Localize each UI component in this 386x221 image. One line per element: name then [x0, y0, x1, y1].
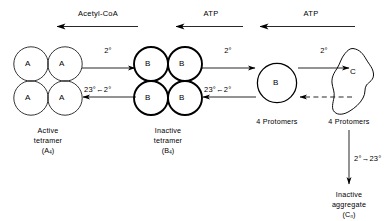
subunit-label-c: C [350, 67, 356, 76]
species-c-blob [322, 46, 378, 118]
top-arrow-label-acetyl-coa: Acetyl-CoA [78, 9, 118, 19]
arrows-b4-b1-group [202, 55, 264, 107]
diagram-canvas: Acetyl-CoA ATP ATP A A A A Active tetram… [0, 0, 386, 221]
species-a4-tetramer [13, 46, 83, 116]
top-arrow-label-atp-1: ATP [204, 9, 219, 19]
subunit-circle-a [14, 81, 48, 115]
subunit-circle-a [48, 47, 82, 81]
top-arrow-label-atp-2: ATP [304, 9, 319, 19]
subunit-label-b: B [273, 78, 279, 87]
subunit-label-b: B [145, 59, 151, 68]
caption-final-line1: Inactive [336, 190, 362, 199]
subunit-circle-a [14, 47, 48, 81]
aggregate-outline [332, 48, 374, 114]
subunit-label-a: A [59, 59, 65, 68]
caption-final-line2: aggregate [332, 200, 366, 209]
subunit-label-b: B [145, 93, 151, 102]
arrow-label-b4-to-a4: 23°←2° [84, 85, 112, 95]
species-b4-tetramer [133, 46, 203, 116]
subunit-label-a: A [59, 93, 65, 102]
arrow-label-a4-to-b4: 2° [104, 46, 112, 56]
caption-a4-formula: (A4) [42, 146, 55, 157]
arrow-label-b1-to-b4: 23°←2° [204, 85, 232, 95]
caption-final-formula: (Cn) [342, 210, 355, 221]
arrow-label-b4-to-b1: 2° [224, 46, 232, 56]
caption-a4-line1: Active [38, 126, 59, 135]
caption-b4-line2: tetramer [154, 136, 182, 145]
subunit-circle-b [134, 81, 168, 115]
arrow-label-c-to-aggregate: 2°→23° [354, 154, 382, 164]
caption-b4-formula: (B4) [162, 146, 175, 157]
caption-c-protomers: 4 Protomers [328, 117, 369, 126]
subunit-label-a: A [25, 59, 31, 68]
subunit-label-a: A [25, 93, 31, 102]
top-arrows-group [0, 0, 386, 40]
subunit-label-b: B [179, 93, 185, 102]
subunit-circle-b [168, 81, 202, 115]
subunit-circle-a [48, 81, 82, 115]
caption-a4-line2: tetramer [34, 136, 62, 145]
subunit-circle-b [168, 47, 202, 81]
caption-b4-line1: Inactive [155, 126, 181, 135]
subunit-label-b: B [179, 59, 185, 68]
subunit-circle-b [134, 47, 168, 81]
caption-b1-protomers: 4 Protomers [256, 117, 297, 126]
